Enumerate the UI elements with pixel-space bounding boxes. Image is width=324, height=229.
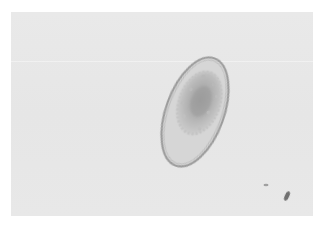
micrograph-overlay [0, 0, 324, 229]
parasite-egg [148, 49, 241, 176]
debris [264, 184, 292, 202]
